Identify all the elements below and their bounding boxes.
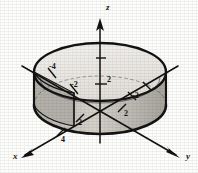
tick-label-y-2: 2 xyxy=(78,119,82,127)
tick-label-x-2: 2 xyxy=(124,110,128,118)
tick-label-z-2: 2 xyxy=(107,76,111,84)
x-axis-label: x xyxy=(13,152,18,161)
z-axis-label: z xyxy=(106,3,110,12)
tick-label-x-4: 4 xyxy=(61,136,65,144)
figure-canvas: z x y 2 -2 -4 -2 2 2 4 xyxy=(0,0,198,173)
tick-label-y-neg4: -4 xyxy=(49,63,56,71)
y-axis-label: y xyxy=(186,152,190,161)
y-axis-arrowhead xyxy=(166,146,180,158)
x-axis-arrowhead xyxy=(21,148,34,158)
cylinder-diagram-svg xyxy=(0,0,198,173)
tick-label-y-neg2: -2 xyxy=(71,81,78,89)
tick-label-x-neg2: -2 xyxy=(132,92,139,100)
